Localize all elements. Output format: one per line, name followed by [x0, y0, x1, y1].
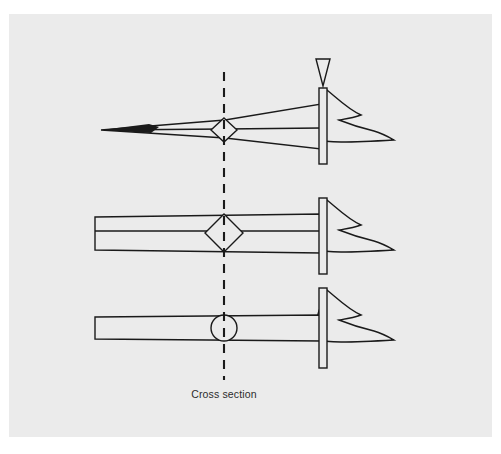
arrow-barrelled-diamond [101, 88, 394, 164]
arrow-parallel-round [95, 288, 394, 368]
arrow-diagram-svg: Cross section [9, 14, 492, 437]
diagram-panel: Cross section [9, 14, 492, 437]
nock-plate-top [319, 88, 327, 164]
arrow-parallel-diamond [95, 198, 394, 274]
downward-triangle-marker [316, 59, 330, 86]
nock-plate-bottom [319, 288, 327, 368]
nock-plate-middle [319, 198, 327, 274]
shaft-outline-bottom [95, 315, 321, 341]
shaft-tip-top [101, 124, 159, 133]
cross-section-caption: Cross section [191, 388, 257, 400]
figure-root: Cross section [0, 0, 501, 454]
